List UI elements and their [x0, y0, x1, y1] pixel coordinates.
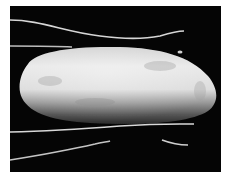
- filament-upper: [10, 20, 184, 38]
- cell-body: [20, 47, 217, 124]
- filament-lower-long: [10, 124, 194, 132]
- filament-lower-right-short: [162, 140, 188, 145]
- micrograph-image: [10, 6, 221, 172]
- filament-left-short: [10, 46, 72, 47]
- micrograph-svg: [10, 6, 221, 172]
- filament-lower-diagonal: [10, 141, 110, 160]
